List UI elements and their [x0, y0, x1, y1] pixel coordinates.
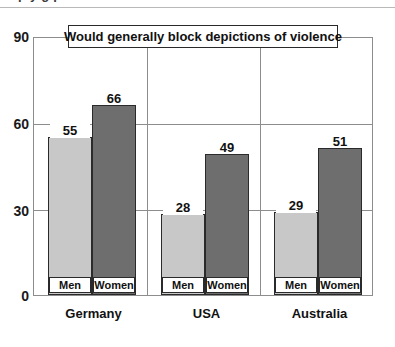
value-usa-women: 49	[205, 140, 249, 155]
scan-edge-artifact: p y g p	[0, 0, 395, 7]
bar-germany-women	[92, 105, 136, 295]
chart-title-box: Would generally block depictions of viol…	[68, 25, 338, 48]
value-australia-women: 51	[318, 134, 362, 149]
series-label-germany-men: Men	[49, 277, 91, 293]
series-label-usa-women: Women	[206, 277, 248, 293]
series-label-usa-men: Men	[162, 277, 204, 293]
bar-usa-women	[205, 154, 249, 295]
value-germany-women: 66	[92, 91, 136, 106]
bar-australia-women	[318, 148, 362, 295]
y-tick-60: 60	[0, 116, 29, 132]
y-tick-30: 30	[0, 203, 29, 219]
value-germany-men: 55	[48, 123, 92, 138]
group-separator-1	[147, 38, 148, 295]
series-label-australia-women: Women	[319, 277, 361, 293]
y-tick-0: 0	[0, 288, 29, 304]
value-australia-men: 29	[274, 198, 318, 213]
group-label-germany: Germany	[47, 306, 140, 321]
value-usa-men: 28	[161, 200, 205, 215]
bar-chart: p y g p 90 60 30 0 55 66 28 49 29 51	[0, 0, 395, 347]
series-label-australia-men: Men	[275, 277, 317, 293]
bar-germany-men	[48, 137, 92, 295]
plot-area: 55 66 28 49 29 51 Men Women Men Women Me…	[33, 37, 373, 296]
y-tick-90: 90	[0, 29, 29, 45]
top-divider	[0, 7, 395, 8]
series-label-germany-women: Women	[93, 277, 135, 293]
group-label-australia: Australia	[273, 306, 366, 321]
group-label-usa: USA	[160, 306, 253, 321]
group-separator-2	[260, 38, 261, 295]
cut-off-top-text: p y g p	[18, 0, 61, 2]
